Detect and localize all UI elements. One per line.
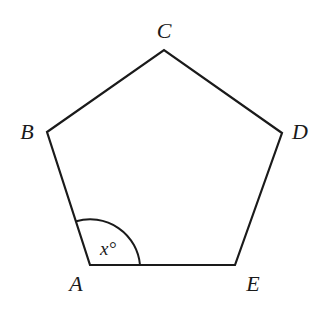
angle-label-x: x° <box>99 238 116 259</box>
pentagon-diagram: x° A B C D E <box>0 0 326 314</box>
diagram-svg: x° A B C D E <box>0 0 326 314</box>
pentagon-shape <box>47 50 282 265</box>
vertex-label-D: D <box>291 119 308 144</box>
vertex-label-A: A <box>67 271 83 296</box>
vertex-label-B: B <box>20 119 33 144</box>
vertex-label-E: E <box>245 271 260 296</box>
vertex-label-C: C <box>157 18 172 43</box>
